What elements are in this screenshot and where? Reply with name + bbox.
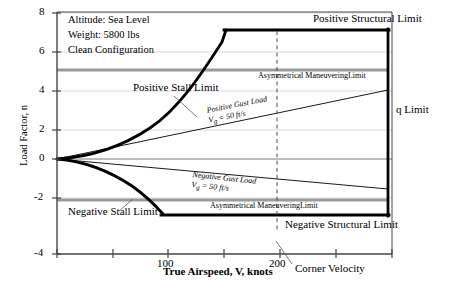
annotation-asymmetrical-maneuvering-limit-bottom: Asymmetrical ManeuveringLimit xyxy=(210,202,318,211)
ytick-label-minus-2: -2 xyxy=(34,191,43,203)
annotation-negative-structural-limit: Negative Structural Limit xyxy=(285,219,398,231)
conditions-info-box: Altitude: Sea Level Weight: 5800 lbs Cle… xyxy=(68,12,154,58)
info-configuration: Clean Configuration xyxy=(68,42,154,57)
info-weight: Weight: 5800 lbs xyxy=(68,27,154,42)
info-altitude: Altitude: Sea Level xyxy=(68,12,154,27)
ytick-label-minus-4: -4 xyxy=(34,247,43,259)
ytick-label-0: 0 xyxy=(39,152,45,164)
negative-gust-load-value: = 50 ft/s xyxy=(200,180,230,192)
ytick-label-8: 8 xyxy=(39,6,45,18)
annotation-corner-velocity: Corner Velocity xyxy=(295,263,365,275)
ytick-label-2: 2 xyxy=(39,123,45,135)
ytick-label-6: 6 xyxy=(39,45,45,57)
annotation-q-limit: q Limit xyxy=(396,104,429,116)
y-axis-title: Load Factor, n xyxy=(18,105,29,166)
annotation-asymmetrical-maneuvering-limit-top: Asymmetrical ManeuveringLimit xyxy=(258,72,366,81)
x-axis-title: True Airspeed, V, knots xyxy=(163,266,273,278)
v-n-diagram-figure: 8 6 4 2 0 -2 -4 100 200 True Airspeed, V… xyxy=(0,0,459,285)
annotation-positive-stall-limit: Positive Stall Limit xyxy=(133,82,219,94)
ytick-label-4: 4 xyxy=(39,84,45,96)
leader-positive-stall xyxy=(174,96,197,117)
annotation-positive-structural-limit: Positive Structural Limit xyxy=(313,13,422,25)
annotation-negative-stall-limit: Negative Stall Limit xyxy=(68,206,158,218)
